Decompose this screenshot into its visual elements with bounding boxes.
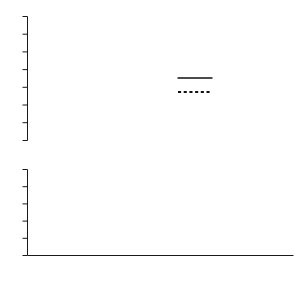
top-chart-y-axis (23, 17, 28, 141)
chart-canvas (0, 0, 302, 291)
figure-root (0, 0, 302, 291)
bottom-chart-y-axis (23, 170, 28, 256)
